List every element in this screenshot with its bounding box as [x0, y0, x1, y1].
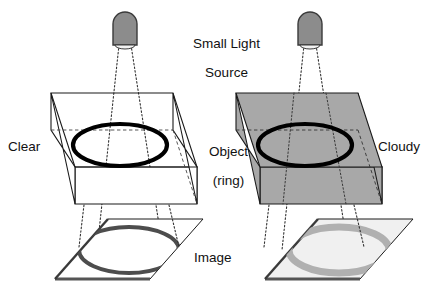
small-light-source-cloudy: [298, 12, 322, 49]
small-light-source-line2: Source: [205, 65, 248, 80]
label-image: Image: [194, 251, 232, 266]
label-cloudy: Cloudy: [378, 140, 420, 155]
object-label-line2: (ring): [213, 173, 245, 188]
small-light-source-clear: [113, 12, 137, 49]
small-light-source-line1: Small Light: [193, 36, 260, 51]
label-small-light-source: Small Light Source: [171, 22, 267, 95]
object-label-line1: Object: [209, 144, 248, 159]
label-object: Object (ring): [190, 130, 252, 203]
label-clear: Clear: [8, 140, 40, 155]
figure-canvas: Small Light Source Clear Cloudy Object (…: [0, 0, 439, 300]
